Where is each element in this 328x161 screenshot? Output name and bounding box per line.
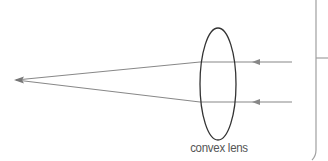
focal-arrowhead-icon bbox=[14, 77, 24, 84]
bracket bbox=[312, 0, 328, 160]
upper-refracted-ray bbox=[16, 62, 200, 80]
lens-diagram bbox=[0, 0, 328, 161]
lower-refracted-ray bbox=[16, 80, 200, 102]
convex-lens bbox=[200, 28, 236, 140]
refracted-rays bbox=[14, 62, 200, 102]
lower-arrowhead-icon bbox=[252, 99, 260, 105]
lens-label: convex lens bbox=[189, 141, 250, 155]
upper-arrowhead-icon bbox=[252, 59, 260, 65]
incoming-rays bbox=[200, 59, 292, 105]
